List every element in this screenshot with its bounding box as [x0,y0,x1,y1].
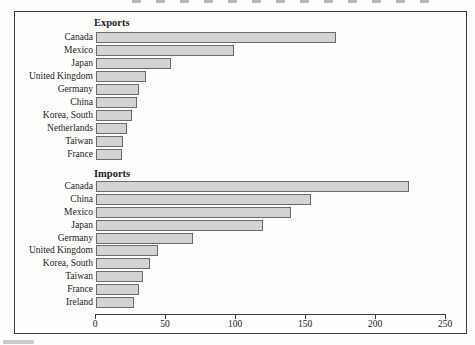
bar [96,207,291,218]
x-axis-line [95,314,446,315]
axis-tick-label: 100 [215,319,255,330]
category-label: France [15,149,96,160]
bar-row: Taiwan [15,270,465,283]
category-label: United Kingdom [15,71,96,82]
bar-row: Mexico [15,44,465,57]
bar [96,194,311,205]
bar-row: United Kingdom [15,70,465,83]
bar-row: China [15,193,465,206]
bar [96,136,123,147]
category-label: Germany [15,233,96,244]
bar [96,284,139,295]
imports-bar-rows: CanadaChinaMexicoJapanGermanyUnited King… [15,180,465,309]
figure-frame: Exports CanadaMexicoJapanUnited KingdomG… [14,11,467,334]
bar-row: Japan [15,219,465,232]
bar-row: Germany [15,83,465,96]
bar [96,149,122,160]
category-label: Japan [15,58,96,69]
category-label: Taiwan [15,136,96,147]
bar-row: Taiwan [15,135,465,148]
category-label: Ireland [15,297,96,308]
category-label: Mexico [15,207,96,218]
category-label: Mexico [15,45,96,56]
bar [96,123,127,134]
category-label: United Kingdom [15,245,96,256]
bar [96,32,336,43]
bar-row: France [15,283,465,296]
category-label: Korea, South [15,110,96,121]
cropped-figure-label-remnant [3,340,34,344]
axis-tick-label: 250 [425,319,465,330]
bar-row: United Kingdom [15,244,465,257]
category-label: China [15,194,96,205]
bar-row: Canada [15,31,465,44]
category-label: Korea, South [15,258,96,269]
bar-row: Mexico [15,206,465,219]
bar [96,110,132,121]
category-label: Japan [15,220,96,231]
category-label: Netherlands [15,123,96,134]
bar [96,45,234,56]
exports-chart: Exports CanadaMexicoJapanUnited KingdomG… [15,15,465,161]
category-label: Germany [15,84,96,95]
bar-row: China [15,96,465,109]
bar-row: Korea, South [15,257,465,270]
axis-tick-label: 50 [145,319,185,330]
category-label: France [15,284,96,295]
category-label: Canada [15,181,96,192]
category-label: Taiwan [15,271,96,282]
bar-row: Netherlands [15,122,465,135]
bar-row: Canada [15,180,465,193]
exports-bar-rows: CanadaMexicoJapanUnited KingdomGermanyCh… [15,31,465,161]
bar-row: Ireland [15,296,465,309]
bar [96,71,146,82]
bar [96,245,158,256]
bar [96,297,134,308]
bar-row: Korea, South [15,109,465,122]
bar [96,181,409,192]
imports-chart: Imports CanadaChinaMexicoJapanGermanyUni… [15,167,465,309]
bar [96,258,150,269]
page: { "figure": { "axis_ticks": [0, 50, 100,… [0,0,475,345]
bar [96,271,143,282]
bar [96,84,139,95]
imports-chart-title: Imports [94,167,465,180]
category-label: China [15,97,96,108]
cropped-caption-remnant [132,0,442,3]
axis-tick-label: 150 [285,319,325,330]
axis-tick-label: 200 [355,319,395,330]
bar [96,233,193,244]
bar [96,220,263,231]
category-label: Canada [15,32,96,43]
bar-row: France [15,148,465,161]
bar-row: Japan [15,57,465,70]
bar-row: Germany [15,232,465,245]
bar [96,97,137,108]
axis-tick-label: 0 [75,319,115,330]
bar [96,58,171,69]
exports-chart-title: Exports [94,15,465,31]
x-axis: 050100150200250 [15,313,466,335]
